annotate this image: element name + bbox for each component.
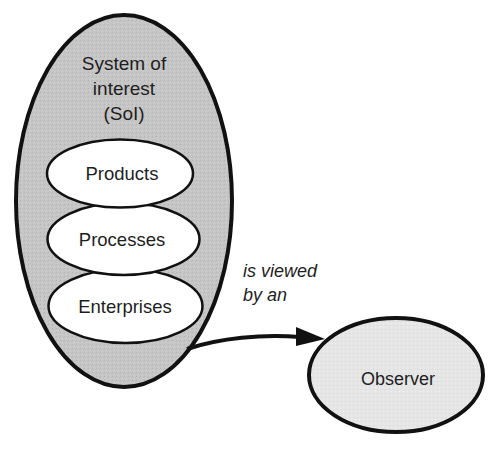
system-title-line-3: (SoI) [103, 103, 144, 124]
system-title-line-1: System of [82, 53, 167, 74]
observer-label: Observer [361, 369, 435, 389]
relation-label-line-1: is viewed [243, 261, 318, 281]
component-enterprises[interactable]: Enterprises [49, 269, 203, 343]
component-products[interactable]: Products [47, 140, 193, 208]
relation-arrow-line [187, 336, 300, 349]
processes-label: Processes [79, 229, 165, 250]
enterprises-label: Enterprises [78, 296, 172, 317]
component-processes[interactable]: Processes [48, 203, 200, 275]
observer[interactable]: Observer [309, 318, 483, 432]
arrowhead-icon [296, 327, 325, 346]
soi-diagram: System of interest (SoI) Enterprises Pro… [0, 0, 497, 451]
products-label: Products [85, 163, 158, 184]
system-title-line-2: interest [93, 78, 156, 99]
relation-label-line-2: by an [243, 285, 287, 305]
